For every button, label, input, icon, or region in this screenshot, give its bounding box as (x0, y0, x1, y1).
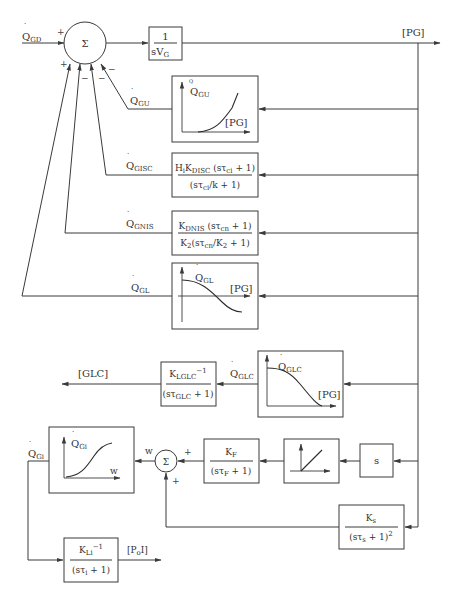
main-summing-junction: Σ (64, 22, 106, 64)
q-gl-signal-label: QGL (131, 282, 150, 295)
sign-filter: + (184, 447, 192, 457)
svg-text:·: · (196, 261, 198, 269)
poi-output-label: [PoI] (127, 545, 148, 557)
q-gi-curve-block: · QGi w (49, 427, 134, 493)
svg-text:s: s (374, 455, 379, 466)
sensor-block: Ks (sτs + 1)2 (339, 505, 404, 549)
q-gisc-transfer-block: HiKDISC (sτci + 1) (sτci/k + 1) (172, 153, 258, 197)
sigma-symbol: Σ (81, 38, 88, 49)
q-gnis-signal-label: QGNIS (126, 218, 154, 231)
gl-to-sum-line (22, 64, 172, 296)
svg-text:·: · (72, 428, 74, 436)
svg-text:w: w (110, 466, 118, 476)
sign-q-gisc: − (98, 73, 106, 83)
sign-q-gl: + (60, 59, 68, 69)
svg-text:[PG]: [PG] (318, 389, 341, 400)
w-signal-label: w (145, 446, 153, 456)
q-gnis-transfer-block: KDNIS (sτcn + 1) K2(sτcn/K2 + 1) (172, 211, 258, 255)
sign-q-gd: + (57, 27, 65, 37)
sign-sensor: + (172, 476, 180, 486)
q-gisc-signal-label: QGISC (126, 160, 153, 173)
svg-text:Q: Q (189, 78, 193, 84)
q-gu-curve-block: Q QGU [PG] (172, 76, 258, 142)
gnis-to-sum-line (65, 64, 172, 233)
derivative-block: s (360, 444, 393, 477)
filter-block: KF (sτF + 1) (204, 439, 259, 483)
svg-text:·: · (127, 150, 129, 158)
q-gl-curve-block: · QGL [PG] (172, 261, 258, 329)
q-glc-curve-block: · QGLC [PG] (258, 351, 343, 417)
li-transfer-block: KLi−1 (sτi + 1) (64, 538, 118, 582)
svg-text:·: · (280, 351, 282, 359)
q-gd-label: QGD (22, 31, 42, 44)
svg-text:·: · (231, 358, 233, 366)
gi-summing-junction: Σ (155, 450, 177, 472)
svg-text:·: · (132, 272, 134, 280)
svg-text:·: · (131, 85, 133, 93)
svg-text:·: · (127, 208, 129, 216)
svg-text:·: · (29, 438, 31, 446)
svg-text:Σ: Σ (163, 457, 169, 467)
integrator-block: 1 sVG (149, 27, 182, 60)
q-glc-signal-label: QGLC (230, 368, 254, 381)
sign-q-gnis: − (81, 73, 89, 83)
glc-output-label: [GLC] (78, 368, 108, 379)
q-gi-signal-label: QGi (28, 448, 45, 461)
ramp-limiter-block (284, 439, 339, 483)
svg-text:(sτs + 1)2: (sτs + 1)2 (349, 530, 393, 544)
svg-text:[PG]: [PG] (230, 283, 253, 294)
svg-text:·: · (24, 20, 26, 28)
glc-transfer-block: KLGLC−1 (sτGLC + 1) (161, 362, 216, 406)
sign-q-gu: − (108, 64, 116, 74)
input-q-gd: · QGD + (22, 20, 65, 44)
pg-output-label: [PG] (402, 27, 425, 38)
svg-text:1: 1 (162, 31, 168, 42)
block-diagram: Σ · QGD + 1 sVG [PG] Q QGU [PG] QGU · − … (0, 0, 458, 598)
q-gu-signal-label: QGU (130, 95, 150, 108)
svg-text:[PG]: [PG] (225, 117, 248, 128)
